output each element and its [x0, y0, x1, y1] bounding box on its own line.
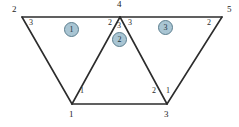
local-node-element3-corner1: 1: [166, 87, 170, 95]
local-node-element1-corner3: 3: [29, 19, 33, 27]
global-node-apex: 4: [117, 0, 122, 9]
element-badge-1: 1: [64, 22, 79, 37]
element-badge-3: 3: [158, 20, 173, 35]
triangular-mesh-figure: 2 4 5 1 3 3 2 1 3 2 3 2 1 1 2 3: [0, 0, 239, 127]
local-node-element1-corner2: 2: [108, 19, 112, 27]
edge-right-slant: [167, 17, 222, 104]
local-node-element1-corner1: 1: [80, 87, 84, 95]
mesh-diagram: [0, 0, 239, 127]
global-node-top-right: 5: [227, 5, 232, 14]
global-node-bottom-right: 3: [164, 110, 169, 119]
local-node-element2-corner3: 3: [117, 22, 121, 30]
local-node-element3-corner3: 3: [128, 19, 132, 27]
local-node-element3-corner2: 2: [207, 19, 211, 27]
mesh-edge-group: [22, 17, 222, 104]
element-badge-2: 2: [112, 32, 127, 47]
global-node-bottom-left: 1: [69, 110, 74, 119]
global-node-top-left: 2: [12, 5, 17, 14]
local-node-element2-corner2: 2: [152, 87, 156, 95]
